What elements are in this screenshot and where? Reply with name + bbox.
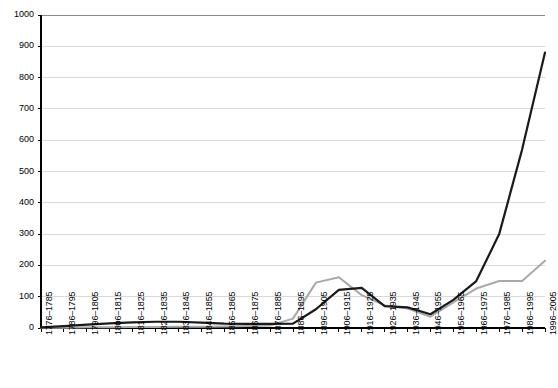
- y-tick-label: 300: [2, 229, 34, 238]
- x-tick-label: 1816–1825: [137, 292, 146, 335]
- x-tick-label: 1966–1975: [480, 292, 489, 335]
- x-tick-label: 1876–1885: [274, 292, 283, 335]
- x-tick-label: 1806–1815: [114, 292, 123, 335]
- y-tick-label: 700: [2, 104, 34, 113]
- x-tick-label: 1936–1945: [412, 292, 421, 335]
- x-tick-label: 1846–1855: [205, 292, 214, 335]
- x-tick-label: 1826–1835: [160, 292, 169, 335]
- x-tick-label: 1786–1795: [68, 292, 77, 335]
- y-tick-label: 600: [2, 135, 34, 144]
- series-line-series-dark: [41, 53, 545, 328]
- x-tick-label: 1856–1865: [228, 292, 237, 335]
- x-tick-label: 1926–1935: [389, 292, 398, 335]
- y-tick-label: 0: [2, 323, 34, 332]
- y-tick-label: 200: [2, 260, 34, 269]
- x-tick-label: 1956–1965: [457, 292, 466, 335]
- x-tick-label: 1946–1955: [434, 292, 443, 335]
- y-tick-label: 900: [2, 41, 34, 50]
- x-tick-label: 1896–1905: [320, 292, 329, 335]
- x-tick-label: 1976–1985: [503, 292, 512, 335]
- y-tick-label: 400: [2, 198, 34, 207]
- x-tick-label: 1916–1925: [366, 292, 375, 335]
- x-tick-label: 1796–1805: [91, 292, 100, 335]
- x-tick-label: 1886–1895: [297, 292, 306, 335]
- x-tick-label: 1986–1995: [526, 292, 535, 335]
- y-tick-label: 1000: [2, 10, 34, 19]
- y-tick-label: 100: [2, 292, 34, 301]
- y-tick-label: 800: [2, 73, 34, 82]
- y-tick-label: 500: [2, 167, 34, 176]
- x-tick-label: 1836–1845: [182, 292, 191, 335]
- x-tick-label: 1866–1875: [251, 292, 260, 335]
- x-tick-label: 1776–1785: [45, 292, 54, 335]
- x-tick-label: 1906–1915: [343, 292, 352, 335]
- x-tick-label: 1996–2005: [549, 292, 558, 335]
